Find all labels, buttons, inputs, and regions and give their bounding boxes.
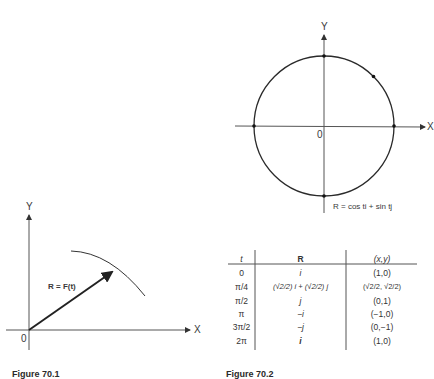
cell-t: 0 xyxy=(228,268,255,278)
table-row: 2π i (1,0) xyxy=(228,336,418,349)
cell-t: 2π xyxy=(228,336,255,346)
table-row: 3π/2 −j (0,−1) xyxy=(228,322,418,335)
header-r: R xyxy=(255,254,346,264)
header-t: t xyxy=(228,254,255,264)
circle-y-axis-label: Y xyxy=(321,22,328,32)
cell-xy: (0,1) xyxy=(346,296,418,306)
table-row: π/4 (√2/2) i + (√2/2) j (√2/2, √2/2) xyxy=(228,282,418,295)
table-row: π/2 j (0,1) xyxy=(228,296,418,309)
cell-r: j xyxy=(255,296,346,306)
caption-right: Figure 70.2 xyxy=(226,369,274,379)
point-t0 xyxy=(392,124,396,128)
table-row: π −i (−1,0) xyxy=(228,309,418,322)
circle-origin-label: 0 xyxy=(317,130,323,140)
point-t-3pi2 xyxy=(322,194,326,198)
vector-label: R = F(t) xyxy=(48,283,76,291)
circle-equation: R = cos ti + sin tj xyxy=(333,203,392,211)
vector-function-figure xyxy=(6,215,190,350)
cell-xy: (−1,0) xyxy=(346,309,418,319)
circle-x-axis xyxy=(235,126,425,127)
cell-r: −i xyxy=(255,309,346,319)
cell-xy: (√2/2, √2/2) xyxy=(346,282,418,291)
cell-t: π/2 xyxy=(228,296,255,306)
left-y-axis-label: Y xyxy=(26,202,33,212)
cell-xy: (1,0) xyxy=(346,268,418,278)
table-row: 0 i (1,0) xyxy=(228,268,418,281)
position-vector xyxy=(29,272,112,330)
caption-left: Figure 70.1 xyxy=(12,369,60,379)
space-curve xyxy=(71,251,145,296)
left-x-axis-label: X xyxy=(194,325,201,335)
point-t-pi4 xyxy=(372,75,376,79)
cell-r: (√2/2) i + (√2/2) j xyxy=(255,282,346,291)
cell-t: π xyxy=(228,309,255,319)
cell-t: 3π/2 xyxy=(228,322,255,332)
cell-r: i xyxy=(255,336,346,346)
point-t-pi2 xyxy=(322,54,326,58)
cell-t: π/4 xyxy=(228,282,255,292)
cell-r: i xyxy=(255,268,346,278)
cell-xy: (0,−1) xyxy=(346,322,418,332)
table-header: t R (x,y) xyxy=(228,254,418,267)
header-xy: (x,y) xyxy=(346,254,418,264)
point-t-pi xyxy=(252,124,256,128)
unit-circle-figure xyxy=(235,35,425,213)
circle-x-axis-label: X xyxy=(427,122,434,132)
cell-xy: (1,0) xyxy=(346,336,418,346)
cell-r: −j xyxy=(255,322,346,332)
left-origin-label: 0 xyxy=(21,334,27,344)
